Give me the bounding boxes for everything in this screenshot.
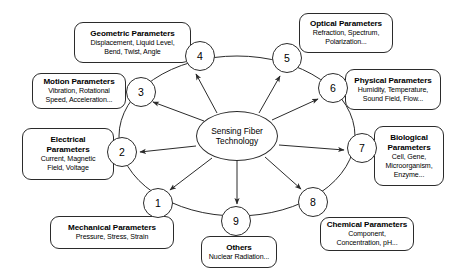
arrow-to-node-6 bbox=[272, 99, 318, 120]
arrow-to-node-4 bbox=[196, 74, 217, 113]
node-circle-4[interactable]: 4 bbox=[185, 41, 215, 71]
node-circle-label: 5 bbox=[284, 52, 290, 64]
node-title: Chemical Parameters bbox=[327, 220, 407, 230]
node-subtitle: Pressure, Stress, Strain bbox=[76, 233, 149, 242]
hub-sensing-fiber-technology: Sensing Fiber Technology bbox=[196, 111, 278, 161]
node-circle-3[interactable]: 3 bbox=[126, 77, 156, 107]
node-subtitle: Current, Magnetic Field, Voltage bbox=[41, 155, 96, 173]
node-circle-2[interactable]: 2 bbox=[107, 137, 137, 167]
node-circle-6[interactable]: 6 bbox=[318, 73, 348, 103]
hub-label: Sensing Fiber Technology bbox=[211, 126, 263, 147]
node-box-5[interactable]: Optical ParametersRefraction, Spectrum, … bbox=[299, 13, 393, 53]
node-title: Mechanical Parameters bbox=[68, 223, 156, 233]
arrow-to-node-7 bbox=[279, 145, 344, 150]
node-box-3[interactable]: Motion ParametersVibration, Rotational S… bbox=[32, 73, 126, 109]
arrow-to-node-3 bbox=[153, 102, 204, 121]
node-box-6[interactable]: Physical ParametersHumidity, Temperature… bbox=[345, 69, 441, 110]
node-title: Physical Parameters bbox=[354, 76, 431, 86]
diagram-canvas: Sensing Fiber Technology 1Mechanical Par… bbox=[0, 0, 461, 278]
arrow-to-node-8 bbox=[265, 157, 301, 189]
node-circle-label: 2 bbox=[119, 146, 125, 158]
arrow-to-node-5 bbox=[259, 76, 280, 113]
node-circle-8[interactable]: 8 bbox=[298, 187, 328, 217]
node-subtitle: Nuclear Radiation... bbox=[209, 253, 269, 262]
node-box-8[interactable]: Chemical ParametersComponent, Concentrat… bbox=[320, 217, 414, 251]
node-circle-label: 1 bbox=[155, 197, 161, 209]
arrow-to-node-2 bbox=[140, 146, 196, 152]
node-subtitle: Component, Concentration, pH... bbox=[336, 230, 397, 248]
node-subtitle: Displacement, Liquid Level, Bend, Twist,… bbox=[90, 39, 174, 57]
node-circle-label: 4 bbox=[197, 50, 203, 62]
node-circle-5[interactable]: 5 bbox=[272, 43, 302, 73]
node-box-9[interactable]: OthersNuclear Radiation... bbox=[201, 236, 277, 268]
node-circle-label: 7 bbox=[359, 142, 365, 154]
node-circle-label: 3 bbox=[138, 86, 144, 98]
node-title: Optical Parameters bbox=[310, 19, 382, 29]
node-circle-label: 9 bbox=[233, 215, 239, 227]
node-title: Geometric Parameters bbox=[90, 29, 174, 39]
node-circle-7[interactable]: 7 bbox=[347, 133, 377, 163]
node-subtitle: Refraction, Spectrum, Polarization... bbox=[313, 29, 380, 47]
node-circle-label: 8 bbox=[310, 196, 316, 208]
node-box-7[interactable]: Biological ParametersCell, Gene, Microor… bbox=[374, 126, 444, 186]
node-subtitle: Cell, Gene, Microorganism, Enzyme... bbox=[385, 153, 432, 180]
node-title: Others bbox=[226, 243, 252, 253]
node-subtitle: Vibration, Rotational Speed, Acceleratio… bbox=[46, 87, 113, 105]
node-box-4[interactable]: Geometric ParametersDisplacement, Liquid… bbox=[74, 22, 191, 63]
node-box-1[interactable]: Mechanical ParametersPressure, Stress, S… bbox=[50, 216, 174, 249]
node-circle-label: 6 bbox=[330, 82, 336, 94]
node-title: Motion Parameters bbox=[43, 77, 114, 87]
arrow-to-node-1 bbox=[170, 158, 212, 190]
node-title: Biological Parameters bbox=[387, 133, 430, 153]
node-box-2[interactable]: Electrical ParametersCurrent, Magnetic F… bbox=[22, 128, 114, 180]
node-title: Electrical Parameters bbox=[46, 135, 89, 155]
node-subtitle: Humidity, Temperature, Sound Field, Flow… bbox=[358, 86, 428, 104]
node-circle-9[interactable]: 9 bbox=[221, 206, 251, 236]
node-circle-1[interactable]: 1 bbox=[143, 188, 173, 218]
